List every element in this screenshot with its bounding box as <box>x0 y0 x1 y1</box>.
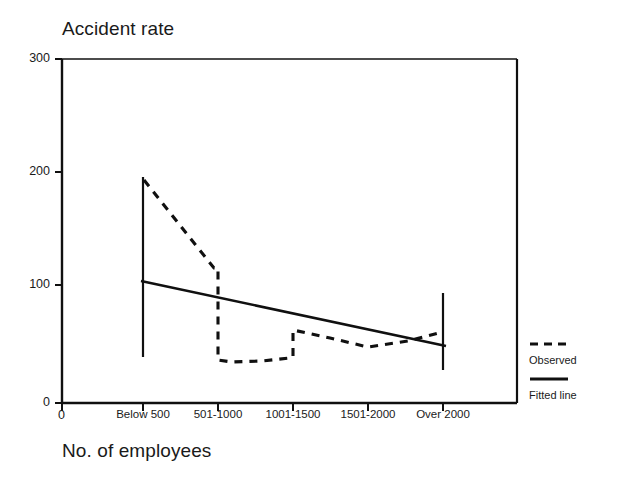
chart-canvas <box>0 0 618 497</box>
plot-frame <box>62 59 517 403</box>
legend-label-fitted: Fitted line <box>529 389 577 401</box>
x-origin-label: 0 <box>58 408 65 422</box>
y-tick-label-0: 0 <box>10 395 50 409</box>
x-axis-title: No. of employees <box>62 440 211 462</box>
y-tick-label-200: 200 <box>10 164 50 178</box>
accident-rate-chart: Accident rate <box>0 0 618 497</box>
y-tick-label-100: 100 <box>10 277 50 291</box>
legend-label-observed: Observed <box>529 354 577 366</box>
x-tick-label-over-2000: Over 2000 <box>398 408 488 420</box>
y-tick-label-300: 300 <box>10 51 50 65</box>
